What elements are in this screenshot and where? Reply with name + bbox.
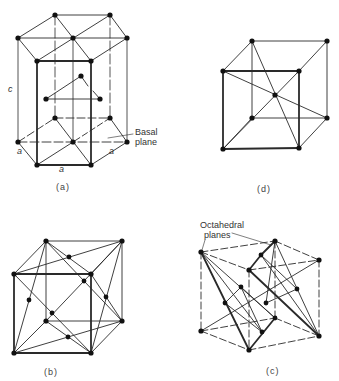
lattice-param-a-left: a (17, 147, 22, 156)
caption-c: (c) (266, 366, 280, 376)
lattice-param-a-right: a (109, 147, 114, 156)
lattice-param-a-bottom: a (59, 165, 64, 174)
caption-a: (a) (56, 182, 70, 192)
basal-plane-label: Basal plane (135, 127, 165, 147)
lattice-param-c: c (8, 85, 13, 94)
caption-d: (d) (257, 184, 271, 194)
octahedral-label-line1: Octahedral (200, 221, 244, 230)
caption-b: (b) (44, 367, 58, 377)
octahedral-label-line2: planes (204, 231, 231, 240)
figure-drawing (0, 0, 339, 381)
